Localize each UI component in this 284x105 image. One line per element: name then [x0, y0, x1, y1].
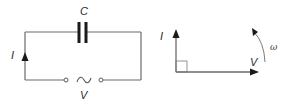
phasor-diagram: I V ω — [160, 28, 278, 76]
ac-tilde-icon — [77, 77, 91, 83]
source-terminal-left — [64, 78, 68, 82]
voltage-phasor-arrowhead-icon — [250, 69, 259, 76]
capacitive-ac-circuit-diagram: C I V I V ω — [0, 0, 284, 105]
phasor-current-label: I — [160, 30, 163, 42]
circuit: C I V — [11, 5, 141, 101]
source-voltage-label: V — [80, 89, 89, 101]
right-angle-marker — [176, 61, 187, 72]
phasor-voltage-label: V — [250, 56, 259, 68]
current-phasor-arrowhead-icon — [173, 29, 180, 38]
capacitor-label: C — [80, 5, 88, 17]
source-terminal-right — [99, 78, 103, 82]
angular-velocity-label: ω — [270, 42, 278, 52]
current-direction-arrow-icon — [22, 52, 29, 61]
capacitor-symbol — [79, 22, 86, 43]
current-label: I — [11, 49, 14, 61]
ac-source-symbol — [64, 77, 103, 83]
